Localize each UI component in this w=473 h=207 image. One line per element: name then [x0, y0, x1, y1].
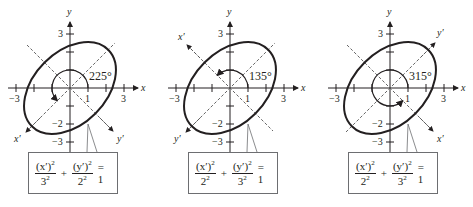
- angle-label: 315°: [408, 70, 433, 82]
- panel-315: y x −3 1 3 3 −2 −3 x′ y′ 315° (x′)222 + …: [320, 0, 473, 207]
- fraction-y: (y′)232: [392, 160, 413, 187]
- equation-box: (x′)232 + (y′)222 = 1: [28, 152, 118, 194]
- tick-label-x-neg3: −3: [9, 94, 20, 104]
- tick-label-x-neg3: −3: [329, 94, 340, 104]
- tick-label-y-3: 3: [58, 29, 63, 39]
- tick-label-x-3: 3: [281, 94, 286, 104]
- tick-label-y-neg2: −2: [52, 119, 63, 129]
- x-axis-label: x: [301, 83, 305, 93]
- y-prime-label: y′: [437, 28, 444, 38]
- tick-label-y-3: 3: [218, 29, 223, 39]
- tick-label-y-neg3: −3: [212, 137, 223, 147]
- tick-label-x-3: 3: [441, 94, 446, 104]
- tick-label-x-1: 1: [85, 94, 90, 104]
- tick-label-y-neg3: −3: [52, 137, 63, 147]
- y-axis-label: y: [67, 7, 71, 17]
- y-axis-label: y: [227, 7, 231, 17]
- tick-label-y-3: 3: [378, 29, 383, 39]
- x-prime-label: x′: [178, 32, 185, 42]
- x-prime-label: x′: [437, 134, 444, 144]
- y-prime-label: y′: [174, 134, 181, 144]
- fraction-y: (y′)222: [72, 160, 93, 187]
- tick-label-x-neg3: −3: [169, 94, 180, 104]
- x-axis-label: x: [141, 83, 145, 93]
- fraction-x: (x′)222: [195, 160, 216, 187]
- panel-135: y x −3 1 3 3 −2 −3 x′ y′ 135° (x′)222 + …: [160, 0, 320, 207]
- y-prime-label: y′: [117, 134, 124, 144]
- angle-label: 225°: [88, 70, 113, 82]
- tick-label-x-1: 1: [245, 94, 250, 104]
- tick-label-y-neg3: −3: [372, 137, 383, 147]
- tick-label-y-neg2: −2: [212, 119, 223, 129]
- fraction-y: (y′)232: [232, 160, 253, 187]
- x-prime-label: x′: [14, 134, 21, 144]
- tick-label-x-3: 3: [121, 94, 126, 104]
- y-axis-label: y: [387, 7, 391, 17]
- angle-label: 135°: [248, 70, 273, 82]
- tick-label-x-1: 1: [405, 94, 410, 104]
- x-axis-label: x: [461, 83, 465, 93]
- equation-box: (x′)222 + (y′)232 = 1: [348, 152, 438, 194]
- panel-225: y x −3 1 3 3 −2 −3 x′ y′ 225° (x′)232 + …: [0, 0, 160, 207]
- fraction-x: (x′)222: [355, 160, 376, 187]
- tick-label-y-neg2: −2: [372, 119, 383, 129]
- fraction-x: (x′)232: [35, 160, 56, 187]
- equation-box: (x′)222 + (y′)232 = 1: [188, 152, 278, 194]
